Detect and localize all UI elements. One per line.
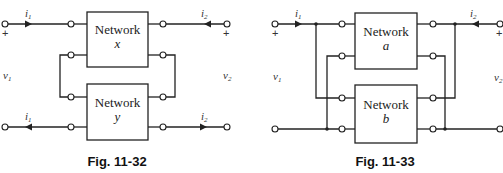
voltage-v2: v2 xyxy=(494,71,503,85)
arrow-left-icon xyxy=(204,21,211,28)
current-i1: i1 xyxy=(295,7,302,21)
network-b-label: Network xyxy=(363,97,409,112)
wire-bus-right-bottom xyxy=(436,56,445,129)
current-i2: i2 xyxy=(470,7,477,21)
terminal xyxy=(160,124,166,130)
arrow-left-icon xyxy=(472,21,479,28)
wire-link-right xyxy=(166,55,175,97)
network-a-name: a xyxy=(383,38,390,53)
arrow-right-icon xyxy=(25,21,32,28)
terminal xyxy=(68,21,74,27)
terminal xyxy=(68,94,74,100)
voltage-v1: v1 xyxy=(3,69,11,83)
terminal-port1-minus xyxy=(272,126,278,132)
arrow-right-icon xyxy=(295,21,302,28)
terminal xyxy=(160,52,166,58)
terminal xyxy=(430,21,436,27)
voltage-v2: v2 xyxy=(223,69,232,83)
terminal xyxy=(68,52,74,58)
plus-sign-right: + xyxy=(223,27,229,39)
arrow-left-icon xyxy=(25,124,32,131)
terminal xyxy=(160,94,166,100)
figure-11-32: Network x Network y i1 i2 i1 i2 v1 v2 + … xyxy=(2,7,232,169)
terminal-port1-minus xyxy=(2,124,8,130)
current-i1-bottom: i1 xyxy=(25,110,32,124)
terminal-port2-minus xyxy=(224,124,230,130)
terminal xyxy=(339,95,345,101)
voltage-v1: v1 xyxy=(273,70,281,84)
junction-dot xyxy=(314,22,318,26)
terminal xyxy=(339,21,345,27)
arrow-right-icon xyxy=(200,124,207,131)
plus-sign-right: + xyxy=(496,27,502,39)
figure-caption: Fig. 11-32 xyxy=(87,154,146,169)
network-y-name: y xyxy=(113,109,121,124)
network-x-label: Network xyxy=(95,22,141,37)
terminal xyxy=(339,126,345,132)
current-i1-top: i1 xyxy=(25,7,32,21)
terminal xyxy=(160,21,166,27)
circuit-diagrams: Network x Network y i1 i2 i1 i2 v1 v2 + … xyxy=(0,0,503,173)
network-x-name: x xyxy=(114,36,121,51)
terminal xyxy=(339,53,345,59)
wire-link-left xyxy=(60,55,68,97)
network-b-name: b xyxy=(383,111,390,126)
figure-caption: Fig. 11-33 xyxy=(355,154,414,169)
wire-bus-left-bottom xyxy=(327,56,339,129)
plus-sign-left: + xyxy=(272,27,278,39)
terminal xyxy=(430,95,436,101)
plus-sign-left: + xyxy=(2,27,8,39)
junction-dot xyxy=(443,127,447,131)
terminal xyxy=(430,53,436,59)
current-i2-top: i2 xyxy=(201,7,208,21)
network-y-label: Network xyxy=(95,95,141,110)
terminal xyxy=(430,126,436,132)
junction-dot xyxy=(325,127,329,131)
junction-dot xyxy=(453,22,457,26)
terminal xyxy=(68,124,74,130)
network-a-label: Network xyxy=(363,24,409,39)
current-i2-bottom: i2 xyxy=(201,110,208,124)
terminal-port2-minus xyxy=(497,126,503,132)
figure-11-33: Network a Network b i1 i2 v1 v2 + + xyxy=(272,7,503,169)
